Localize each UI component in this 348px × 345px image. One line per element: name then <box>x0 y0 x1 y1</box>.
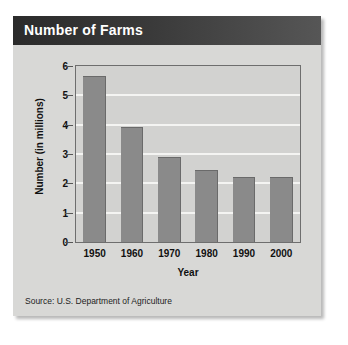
y-axis-tick-mark <box>65 66 73 67</box>
y-axis-tick-mark <box>65 95 73 96</box>
source-note: Source: U.S. Department of Agriculture <box>25 296 172 306</box>
card-header-bar: Number of Farms <box>13 16 321 45</box>
chart-page: Number of Farms Number (in millions) 012… <box>0 0 348 345</box>
y-axis-tick-mark <box>65 213 73 214</box>
y-axis-tick-mark <box>65 242 73 243</box>
page-title: Number of Farms <box>24 22 143 38</box>
x-axis-title: Year <box>75 267 301 278</box>
bar-series <box>76 66 300 242</box>
bar <box>83 76 105 242</box>
y-axis-tick-mark <box>65 125 73 126</box>
bar <box>195 170 217 242</box>
bar <box>270 177 292 242</box>
y-axis-tick-mark <box>65 183 73 184</box>
bar-slot <box>233 66 255 242</box>
bar-slot <box>195 66 217 242</box>
bar <box>121 127 143 242</box>
x-axis-tick-label: 2000 <box>263 248 300 259</box>
bar-slot <box>270 66 292 242</box>
bar <box>233 177 255 242</box>
x-axis-tick-label: 1960 <box>113 248 150 259</box>
bar <box>158 157 180 242</box>
chart-region: Number (in millions) 0123456 19501960197… <box>13 45 321 316</box>
x-axis-tick-label: 1990 <box>225 248 262 259</box>
chart-card: Number of Farms Number (in millions) 012… <box>13 16 321 316</box>
bar-slot <box>158 66 180 242</box>
x-axis-tick-label: 1950 <box>76 248 113 259</box>
bar-slot <box>121 66 143 242</box>
bar-slot <box>83 66 105 242</box>
y-axis-tick-mark <box>65 154 73 155</box>
x-axis-tick-label: 1970 <box>151 248 188 259</box>
x-axis-tick-label: 1980 <box>188 248 225 259</box>
